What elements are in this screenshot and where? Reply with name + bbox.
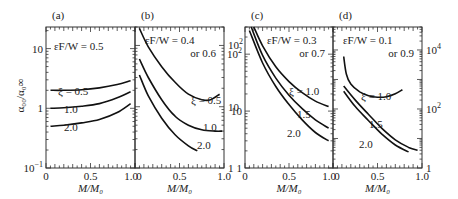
panel-label: (a) xyxy=(52,9,65,22)
annotation-text: εF/W = 0.3 xyxy=(267,34,317,46)
series-label: ξ = 0.5 xyxy=(191,94,222,107)
x-tick-label: 0 xyxy=(43,170,49,182)
x-tick-label: 0 xyxy=(136,170,142,182)
y-tick-label: 10 xyxy=(231,105,243,117)
chart-figure: 00.51.0M/M₀10−1110(a)εF/W = 0.5ξ = 0.51.… xyxy=(0,0,458,199)
series-label: 1.0 xyxy=(64,103,78,115)
x-tick-label: 0.5 xyxy=(371,170,385,182)
series-label: 2.0 xyxy=(287,127,301,139)
series-label: 1.5 xyxy=(297,108,311,120)
series-label: ξ = 0.5 xyxy=(58,85,89,98)
y-tick-label: 102 xyxy=(426,101,441,115)
panel-d: 00.51.0M/M₀1102104(d)εF/W = 0.1or 0.9ξ =… xyxy=(333,9,441,194)
annotation-text: or 0.9 xyxy=(388,47,414,59)
annotation-text: εF/W = 0.1 xyxy=(343,34,392,46)
y-tick-label: 102 xyxy=(227,46,242,60)
series-label: ξ = 1.0 xyxy=(289,85,320,98)
series-label: ξ = 1.0 xyxy=(361,90,392,103)
y-axis-label: α₀₀/α₀∞ xyxy=(14,78,26,112)
panel-a: 00.51.0M/M₀10−1110(a)εF/W = 0.5ξ = 0.51.… xyxy=(14,9,138,194)
series-label: 2.0 xyxy=(359,138,373,150)
y-tick-label: 10 xyxy=(32,43,44,55)
annotation-text: εF/W = 0.4 xyxy=(145,34,195,46)
x-tick-label: 0.5 xyxy=(173,170,187,182)
x-axis-label: M/M₀ xyxy=(166,182,192,194)
y-tick-label: 104 xyxy=(426,42,441,56)
x-tick-label: 0 xyxy=(334,170,340,182)
y-tick-label: 1 xyxy=(237,162,243,174)
series-label: 1.0 xyxy=(203,121,217,133)
series-label: 2.0 xyxy=(197,139,211,151)
y-tick-label: 1 xyxy=(426,162,432,174)
panel-c: 00.51.0M/M₀110102(c)εF/W = 0.3or 0.7ξ = … xyxy=(227,9,336,194)
panel-b: 00.51.0M/M₀110102(b)εF/W = 0.4or 0.6ξ = … xyxy=(135,9,243,194)
annotation-text: or 0.6 xyxy=(190,47,216,59)
y-tick-label: 1 xyxy=(228,162,234,174)
series-line-2.0 xyxy=(51,104,131,127)
series-label: 2.0 xyxy=(64,121,78,133)
x-tick-label: 0 xyxy=(242,170,248,182)
annotation-text: εF/W = 0.5 xyxy=(54,40,104,52)
x-tick-label: 0.5 xyxy=(84,170,98,182)
x-axis-label: M/M₀ xyxy=(77,182,103,194)
x-axis-label: M/M₀ xyxy=(275,182,301,194)
panel-label: (b) xyxy=(141,9,154,22)
series-line-2.0 xyxy=(139,75,197,151)
x-axis-label: M/M₀ xyxy=(364,182,390,194)
y-tick-label: 10−1 xyxy=(23,160,43,174)
panel-label: (c) xyxy=(251,9,264,22)
annotation-text: or 0.7 xyxy=(299,47,325,59)
panel-label: (d) xyxy=(339,9,352,22)
x-tick-label: 0.5 xyxy=(282,170,296,182)
y-tick-label: 1 xyxy=(38,102,44,114)
